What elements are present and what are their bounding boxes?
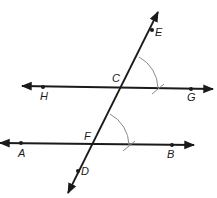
line-AB [0, 143, 194, 145]
point-label-e: E [155, 26, 163, 38]
point-label-c: C [112, 72, 120, 84]
point-label-b: B [167, 148, 174, 160]
point-label-a: A [17, 147, 25, 159]
point-label-h: H [40, 90, 48, 102]
point-h-dot [41, 85, 45, 89]
point-a-dot [19, 141, 23, 145]
point-label-f: F [84, 130, 92, 142]
line-HG [22, 86, 213, 89]
geometry-diagram: ECHGFABD [0, 0, 217, 198]
labels-layer: ECHGFABD [17, 26, 196, 177]
point-d-dot [76, 169, 80, 173]
lines-layer [0, 12, 213, 193]
point-b-dot [170, 143, 174, 147]
point-label-d: D [81, 165, 89, 177]
arc-at-F [110, 114, 129, 145]
point-label-g: G [187, 91, 196, 103]
arc-at-C [139, 57, 158, 88]
point-e-dot [150, 28, 154, 32]
